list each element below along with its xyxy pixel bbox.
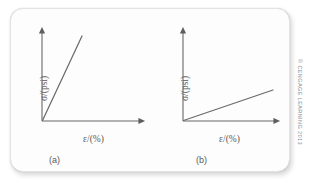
- chart-panel-b: σ/(psi) ε/(%) (b): [156, 9, 291, 173]
- chart-b-caption-label: (b): [196, 155, 207, 165]
- figure-root: σ/(psi) ε/(%) (a): [0, 0, 319, 183]
- chart-panel-a: σ/(psi) ε/(%) (a): [11, 9, 161, 173]
- copyright-credit: © CENGAGE LEARNING 2013: [297, 59, 303, 145]
- chart-b-data-line: [184, 90, 274, 121]
- figure-card: σ/(psi) ε/(%) (a): [10, 8, 290, 172]
- chart-a-x-axis-label: ε/(%): [83, 134, 104, 144]
- chart-b-axes-and-line: [156, 9, 291, 173]
- chart-a-y-axis-label: σ/(psi): [39, 76, 49, 101]
- chart-a-axes-and-line: [11, 9, 161, 173]
- chart-a-caption-label: (a): [49, 155, 60, 165]
- chart-b-x-axis-label: ε/(%): [219, 134, 240, 144]
- chart-b-y-axis-label: σ/(psi): [180, 76, 190, 101]
